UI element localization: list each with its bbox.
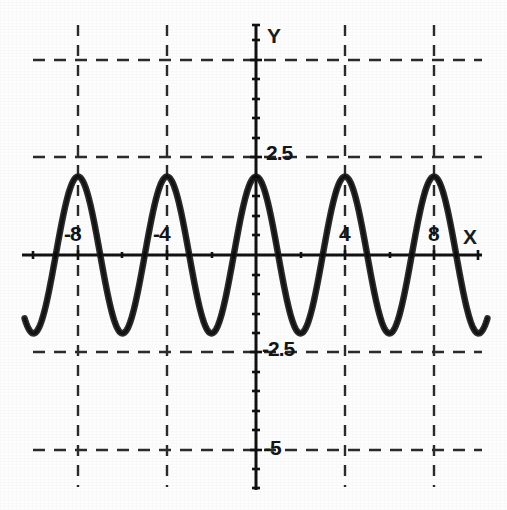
x-axis-label: X	[463, 225, 477, 249]
x-tick-label-4: 4	[339, 222, 350, 246]
y-tick-label-neg2point5: -2.5	[262, 337, 294, 361]
x-tick-label-8: 8	[428, 222, 439, 246]
y-tick-label-2point5: 2.5	[266, 141, 292, 165]
cosine-wave-plot	[0, 0, 507, 510]
graph-canvas: Y X -8 -4 4 8 2.5 -2.5 -5	[0, 0, 507, 510]
y-tick-label-neg5: -5	[264, 436, 281, 460]
x-tick-label-neg8: -8	[64, 222, 81, 246]
x-tick-label-neg4: -4	[153, 222, 170, 246]
y-axis-label: Y	[267, 24, 281, 48]
y-axis	[250, 25, 262, 490]
